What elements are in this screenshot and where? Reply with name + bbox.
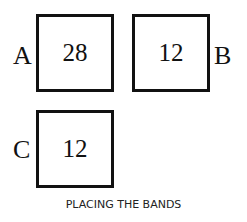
label-a: A (13, 43, 32, 69)
caption: PLACING THE BANDS (0, 198, 247, 211)
box-a: 28 (36, 14, 114, 92)
label-c: C (13, 137, 30, 163)
box-a-value: 28 (63, 39, 88, 67)
label-b: B (214, 43, 231, 69)
box-b: 12 (132, 14, 210, 92)
box-c: 12 (36, 110, 114, 188)
box-c-value: 12 (63, 135, 88, 163)
box-b-value: 12 (159, 39, 184, 67)
